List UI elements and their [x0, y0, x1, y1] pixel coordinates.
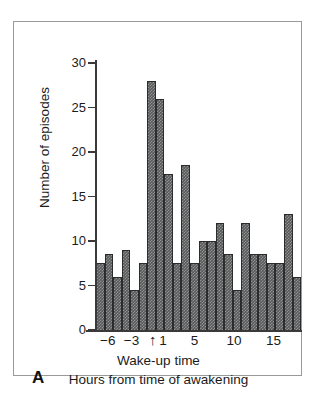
x-axis-tick-label: 15	[266, 334, 281, 348]
histogram-bar	[96, 263, 105, 330]
histogram-bar	[284, 214, 293, 330]
y-axis-title: Number of episodes	[37, 73, 52, 223]
histogram-bar	[207, 241, 216, 330]
x-axis-tick-label: 5	[191, 334, 199, 348]
histogram-bar	[233, 290, 242, 330]
x-axis-title: Hours from time of awakening	[14, 372, 303, 387]
histogram-bar	[164, 174, 173, 330]
y-axis-tick	[88, 62, 96, 64]
y-axis-tick	[88, 196, 96, 198]
histogram-bar	[224, 254, 233, 330]
histogram-bars	[96, 63, 301, 330]
histogram-bar	[113, 277, 122, 330]
histogram-bar	[293, 277, 302, 330]
x-axis-tick-label: 10	[226, 334, 241, 348]
y-axis-tick-label: 30	[54, 56, 86, 69]
y-axis-tick	[88, 329, 96, 331]
histogram-bar	[122, 250, 131, 330]
x-axis-tick-label: −3	[124, 334, 139, 348]
y-axis-tick-label: 15	[54, 190, 86, 203]
histogram-bar	[199, 241, 208, 330]
y-axis-tick	[88, 151, 96, 153]
histogram-bar	[181, 165, 190, 330]
y-axis-tick-label: 10	[54, 234, 86, 247]
y-axis-tick-label: 0	[54, 323, 86, 336]
histogram-bar	[147, 81, 156, 330]
x-axis-tick-label: −6	[100, 334, 115, 348]
y-axis-tick	[88, 107, 96, 109]
histogram-bar	[250, 254, 259, 330]
figure-frame: 051015202530 −6−3151015 Number of episod…	[13, 21, 302, 376]
histogram-bar	[267, 263, 276, 330]
panel-label: A	[32, 368, 44, 388]
histogram-bar	[173, 263, 182, 330]
wake-up-arrow-icon: ↑	[149, 332, 157, 347]
y-axis-tick-label: 5	[54, 279, 86, 292]
x-axis-line	[86, 330, 302, 332]
histogram-bar	[258, 254, 267, 330]
histogram-bar	[156, 99, 165, 330]
histogram-bar	[241, 223, 250, 330]
histogram-bar	[130, 290, 139, 330]
plot-area	[96, 63, 301, 330]
y-axis-tick	[88, 240, 96, 242]
y-axis-tick	[88, 285, 96, 287]
y-axis-tick-label: 20	[54, 145, 86, 158]
histogram-bar	[216, 223, 225, 330]
x-axis-secondary-label: Wake-up time	[14, 353, 303, 368]
y-axis-tick-label: 25	[54, 101, 86, 114]
histogram-bar	[139, 263, 148, 330]
histogram-bar	[190, 263, 199, 330]
histogram-bar	[105, 254, 114, 330]
histogram-bar	[275, 263, 284, 330]
x-axis-tick-label: 1	[159, 334, 167, 348]
